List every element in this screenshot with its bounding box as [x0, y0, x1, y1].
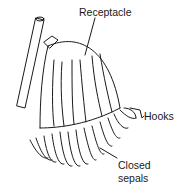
stem	[17, 17, 44, 108]
receptacle-leader-line	[85, 18, 95, 55]
closed-sepals-label-line1: Closed	[118, 159, 151, 171]
closed-sepals-leader-line	[100, 148, 117, 158]
closed-sepals-shape	[30, 108, 136, 166]
closed-sepals-label-line2: sepals	[118, 172, 148, 184]
hooks-leader-bracket	[130, 108, 144, 118]
botanical-diagram: Receptacle Hooks Closed sepals	[0, 0, 181, 193]
receptacle-label: Receptacle	[79, 6, 132, 18]
flower-head-illustration	[0, 0, 181, 193]
hooks-label: Hooks	[144, 110, 174, 122]
receptacle-shape	[40, 36, 120, 128]
